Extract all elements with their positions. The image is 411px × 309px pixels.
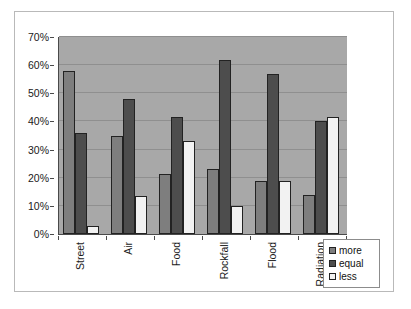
x-axis-tick-mark	[154, 236, 155, 240]
y-axis-tick-mark	[50, 93, 54, 94]
bar-group	[63, 37, 99, 234]
x-axis-label-rockfall: Rockfall	[219, 242, 230, 279]
bar-air-less	[135, 196, 147, 234]
y-axis-tick-label: 70%	[28, 32, 49, 43]
bar-radiation-more	[303, 195, 315, 234]
equal-swatch-icon	[329, 260, 336, 267]
y-axis-tick-mark	[50, 150, 54, 151]
y-axis-tick-label: 10%	[28, 201, 49, 212]
less-swatch-icon	[329, 273, 336, 280]
y-axis-tick-mark	[50, 121, 54, 122]
bar-air-equal	[123, 99, 135, 234]
x-axis-tick-mark	[202, 236, 203, 240]
bar-flood-more	[255, 181, 267, 234]
bar-flood-equal	[267, 74, 279, 234]
x-axis-tick-mark	[250, 236, 251, 240]
bar-street-more	[63, 71, 75, 234]
bar-food-equal	[171, 117, 183, 234]
y-axis-tick-mark	[50, 178, 54, 179]
x-axis: StreetAirFoodRockfallFloodRadiation	[58, 236, 346, 296]
bar-group	[111, 37, 147, 234]
bar-food-more	[159, 174, 171, 235]
legend-label: more	[339, 246, 362, 256]
bars-layer	[59, 37, 347, 234]
x-axis-tick-mark	[298, 236, 299, 240]
bar-radiation-less	[327, 117, 339, 234]
y-axis: 0%10%20%30%40%50%60%70%	[15, 37, 55, 234]
x-axis-label-food: Food	[171, 242, 182, 266]
legend-item-equal[interactable]: equal	[329, 257, 375, 270]
bar-radiation-equal	[315, 121, 327, 234]
x-axis-tick-mark	[106, 236, 107, 240]
bar-street-less	[87, 226, 99, 234]
bar-food-less	[183, 141, 195, 234]
y-axis-tick-label: 0%	[34, 229, 49, 240]
x-axis-label-flood: Flood	[267, 242, 278, 268]
bar-group	[159, 37, 195, 234]
legend-item-less[interactable]: less	[329, 270, 375, 283]
legend-label: less	[339, 272, 357, 282]
bar-air-more	[111, 136, 123, 235]
bar-group	[207, 37, 243, 234]
bar-rockfall-less	[231, 206, 243, 234]
y-axis-tick-mark	[50, 37, 54, 38]
bar-group	[303, 37, 339, 234]
bar-group	[255, 37, 291, 234]
bar-rockfall-equal	[219, 60, 231, 234]
chart-frame: 0%10%20%30%40%50%60%70% StreetAirFoodRoc…	[14, 11, 394, 292]
y-axis-tick-label: 30%	[28, 144, 49, 155]
y-axis-tick-mark	[50, 234, 54, 235]
legend-item-more[interactable]: more	[329, 244, 375, 257]
bar-flood-less	[279, 181, 291, 234]
legend-label: equal	[339, 259, 363, 269]
bar-rockfall-more	[207, 169, 219, 234]
y-axis-tick-label: 60%	[28, 60, 49, 71]
y-axis-tick-label: 50%	[28, 88, 49, 99]
y-axis-tick-label: 40%	[28, 116, 49, 127]
chart-legend: moreequalless	[323, 239, 380, 288]
y-axis-tick-mark	[50, 206, 54, 207]
y-axis-tick-label: 20%	[28, 172, 49, 183]
y-axis-tick-mark	[50, 65, 54, 66]
more-swatch-icon	[329, 247, 336, 254]
x-axis-label-air: Air	[123, 242, 134, 255]
plot-area	[58, 37, 347, 235]
x-axis-label-street: Street	[75, 242, 86, 270]
bar-street-equal	[75, 133, 87, 234]
x-axis-tick-mark	[58, 236, 59, 240]
